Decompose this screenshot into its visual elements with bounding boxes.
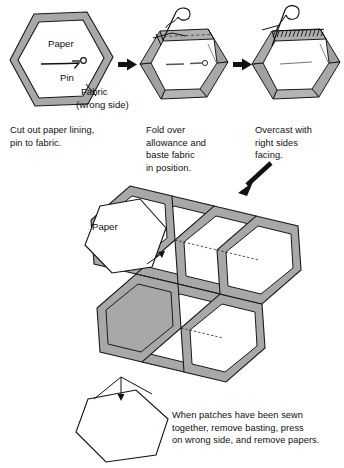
diagram-svg	[0, 0, 344, 468]
step2-hexagon-group	[140, 8, 228, 99]
step1-fabric-label: Fabric	[81, 86, 108, 97]
step1-fabric-side-label: (wrong side)	[76, 99, 129, 110]
step2-band-lower-right	[200, 62, 228, 97]
step3-band-upper-right	[320, 29, 340, 63]
cluster-paper-label: Paper	[92, 221, 118, 232]
step2-pin-icon	[166, 60, 208, 65]
step3-hexagon-group	[252, 6, 340, 99]
step3-caption: Overcast with right sides facing.	[255, 124, 312, 162]
arrow-step2-to-step3	[233, 59, 252, 71]
step3-band-lower-right	[312, 62, 340, 97]
step1-paper-label: Paper	[48, 38, 74, 49]
step1-caption: Cut out paper lining, pin to fabric.	[10, 124, 94, 149]
step2-band-top	[160, 29, 214, 41]
step1-pin-label: Pin	[60, 72, 74, 83]
final-caption: When patches have been sewn together, re…	[172, 409, 319, 447]
illustration-canvas: Paper Pin Fabric (wrong side) Cut out pa…	[0, 0, 344, 468]
step2-band-bottom	[161, 89, 207, 99]
step2-band-lower-left	[140, 63, 165, 99]
step3-band-lower-left	[252, 63, 277, 99]
step2-band-upper-right	[208, 29, 228, 63]
arrow-step1-to-step2	[118, 59, 137, 71]
loose-paper-hexagon-bottom	[76, 390, 168, 462]
arrow-to-cluster	[238, 163, 271, 196]
step2-caption: Fold over allowance and baste fabric in …	[146, 124, 206, 174]
step3-band-bottom	[273, 89, 319, 99]
